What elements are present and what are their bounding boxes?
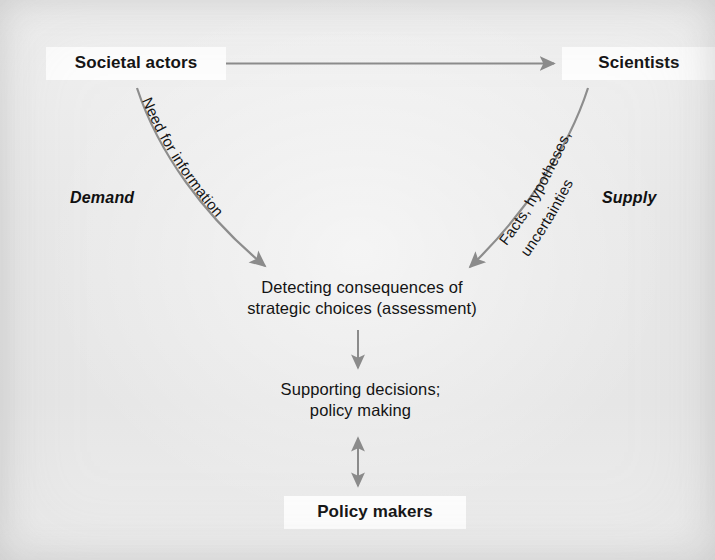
side-label-demand: Demand xyxy=(70,189,134,207)
node-societal-actors[interactable]: Societal actors xyxy=(46,47,226,80)
diagram-canvas: Need for information Facts, hypotheses, … xyxy=(0,0,715,560)
node-assessment[interactable]: Detecting consequences of strategic choi… xyxy=(228,277,496,319)
node-supporting-decisions[interactable]: Supporting decisions; policy making xyxy=(258,379,463,421)
node-scientists[interactable]: Scientists xyxy=(562,47,715,80)
edge-label-need-for-information: Need for information xyxy=(139,95,227,220)
node-policy-makers[interactable]: Policy makers xyxy=(284,496,466,529)
side-label-supply: Supply xyxy=(602,189,657,207)
